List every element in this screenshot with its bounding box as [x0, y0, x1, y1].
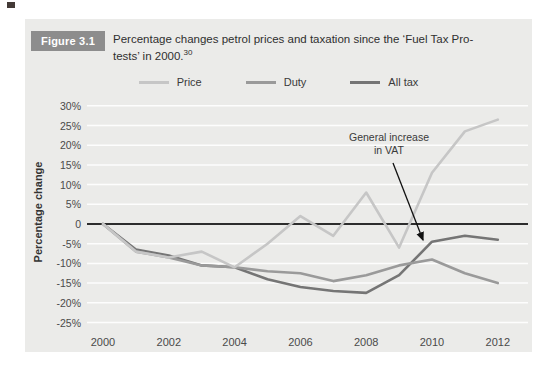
svg-text:25%: 25% [60, 120, 81, 132]
line-chart: 30%25%20%15%10%5%0-5%-10%-15%-20%-25%200… [25, 19, 532, 352]
svg-text:-5%: -5% [62, 238, 81, 250]
vat-annotation-line2: in VAT [374, 144, 404, 156]
svg-text:2012: 2012 [486, 336, 510, 348]
svg-text:5%: 5% [66, 198, 81, 210]
svg-text:15%: 15% [60, 159, 81, 171]
svg-text:-25%: -25% [56, 317, 81, 329]
svg-text:0: 0 [75, 218, 81, 230]
svg-text:-15%: -15% [56, 277, 81, 289]
svg-text:10%: 10% [60, 179, 81, 191]
svg-text:Percentage change: Percentage change [32, 162, 44, 263]
figure-panel: Figure 3.1 Percentage changes petrol pri… [25, 19, 532, 352]
svg-text:2006: 2006 [288, 336, 312, 348]
vat-annotation-line1: General increase [349, 131, 429, 143]
svg-text:2004: 2004 [222, 336, 246, 348]
svg-text:30%: 30% [60, 100, 81, 112]
svg-text:2000: 2000 [91, 336, 115, 348]
vat-annotation: General increase in VAT [323, 131, 455, 157]
svg-text:2002: 2002 [157, 336, 181, 348]
corner-mark [7, 2, 15, 8]
svg-text:20%: 20% [60, 139, 81, 151]
svg-text:-20%: -20% [56, 297, 81, 309]
svg-text:-10%: -10% [56, 257, 81, 269]
svg-text:2008: 2008 [354, 336, 378, 348]
page: Figure 3.1 Percentage changes petrol pri… [0, 0, 555, 377]
svg-text:2010: 2010 [420, 336, 444, 348]
